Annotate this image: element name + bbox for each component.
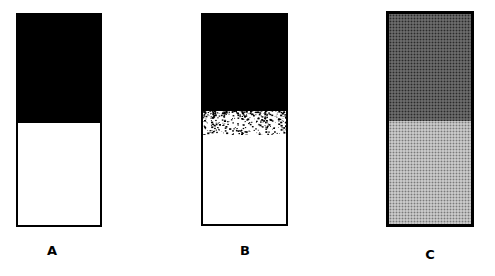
panel-b-label: B	[235, 243, 255, 258]
panel-a-box	[16, 13, 102, 227]
panel-c-box	[386, 11, 474, 227]
panel-c-label: C	[420, 247, 440, 262]
panel-b-dark-region	[203, 15, 286, 111]
panel-c-light-stipple-region	[389, 121, 471, 224]
panel-b-ragged-boundary	[203, 105, 286, 135]
panel-b-box	[201, 13, 288, 226]
panel-c-dark-stipple-region	[389, 14, 471, 121]
panel-a-dark-region	[18, 15, 100, 123]
panel-a-label: A	[42, 243, 62, 258]
